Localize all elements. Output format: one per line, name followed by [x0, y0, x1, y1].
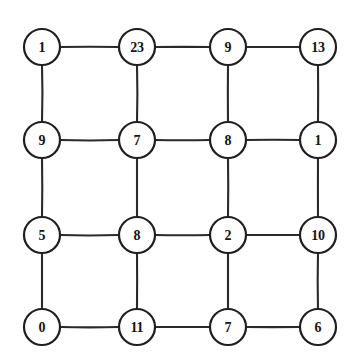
graph-node[interactable]: 1: [24, 29, 60, 65]
graph-node[interactable]: 1: [300, 122, 336, 158]
graph-node[interactable]: 8: [119, 217, 155, 253]
node-layer: 12391397815821001176: [24, 29, 336, 345]
graph-node[interactable]: 8: [210, 122, 246, 158]
node-label: 7: [134, 133, 141, 148]
figure-container: 12391397815821001176: [0, 0, 358, 361]
node-label: 10: [311, 228, 325, 243]
node-label: 6: [315, 320, 322, 335]
node-label: 2: [225, 228, 232, 243]
node-label: 1: [39, 40, 46, 55]
node-label: 7: [225, 320, 232, 335]
grid-graph-diagram: 12391397815821001176: [0, 0, 358, 361]
node-label: 13: [311, 40, 325, 55]
node-label: 5: [39, 228, 46, 243]
graph-node[interactable]: 9: [210, 29, 246, 65]
graph-node[interactable]: 9: [24, 122, 60, 158]
graph-node[interactable]: 11: [119, 309, 155, 345]
graph-node[interactable]: 13: [300, 29, 336, 65]
graph-node[interactable]: 23: [119, 29, 155, 65]
graph-node[interactable]: 7: [210, 309, 246, 345]
edge-layer: [42, 47, 318, 328]
node-label: 9: [39, 133, 46, 148]
graph-node[interactable]: 7: [119, 122, 155, 158]
node-label: 23: [130, 40, 144, 55]
graph-node[interactable]: 0: [24, 309, 60, 345]
node-label: 8: [225, 133, 232, 148]
graph-node[interactable]: 2: [210, 217, 246, 253]
node-label: 0: [39, 320, 46, 335]
node-label: 1: [315, 133, 322, 148]
graph-node[interactable]: 10: [300, 217, 336, 253]
graph-node[interactable]: 5: [24, 217, 60, 253]
node-label: 11: [131, 320, 144, 335]
node-label: 8: [134, 228, 141, 243]
node-label: 9: [225, 40, 232, 55]
graph-node[interactable]: 6: [300, 309, 336, 345]
